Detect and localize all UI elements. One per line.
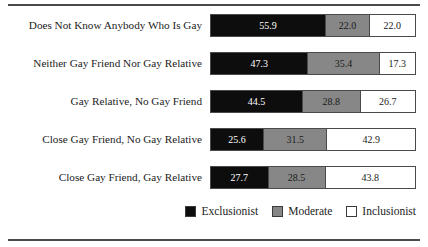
bar-segment-exclusionist: 27.7: [211, 167, 268, 188]
bar-segment-exclusionist: 25.6: [211, 129, 263, 150]
stacked-bar-track: 55.9 22.0 22.0: [210, 14, 416, 37]
row-label: Close Gay Friend, Gay Relative: [0, 166, 202, 189]
legend-item-exclusionist: Exclusionist: [185, 205, 258, 217]
bar-segment-exclusionist: 44.5: [211, 91, 302, 112]
table-row: Gay Relative, No Gay Friend 44.5 28.8 26…: [0, 90, 428, 113]
bar-segment-moderate: 22.0: [325, 15, 370, 36]
legend-item-moderate: Moderate: [272, 205, 332, 217]
bar-segment-inclusionist: 42.9: [327, 129, 415, 150]
table-row: Close Gay Friend, Gay Relative 27.7 28.5…: [0, 166, 428, 189]
bar-segment-inclusionist: 22.0: [370, 15, 415, 36]
stacked-bar-track: 44.5 28.8 26.7: [210, 90, 416, 113]
chart-plot-area: Does Not Know Anybody Who Is Gay 55.9 22…: [0, 14, 428, 204]
bar-segment-inclusionist: 17.3: [380, 53, 415, 74]
stacked-bar-track: 27.7 28.5 43.8: [210, 166, 416, 189]
table-row: Does Not Know Anybody Who Is Gay 55.9 22…: [0, 14, 428, 37]
stacked-bar-track: 25.6 31.5 42.9: [210, 128, 416, 151]
bar-segment-inclusionist: 26.7: [361, 91, 415, 112]
legend-label: Exclusionist: [201, 205, 258, 217]
stacked-bar-track: 47.3 35.4 17.3: [210, 52, 416, 75]
legend-swatch-icon: [272, 206, 283, 217]
row-label: Gay Relative, No Gay Friend: [0, 90, 202, 113]
chart-legend: Exclusionist Moderate Inclusionist: [0, 205, 416, 217]
bar-segment-inclusionist: 43.8: [326, 167, 415, 188]
bar-segment-exclusionist: 47.3: [211, 53, 307, 74]
legend-swatch-icon: [346, 206, 357, 217]
legend-label: Moderate: [288, 205, 332, 217]
bar-segment-moderate: 28.8: [302, 91, 361, 112]
bottom-rule-divider: [8, 239, 420, 241]
legend-swatch-icon: [185, 206, 196, 217]
table-row: Close Gay Friend, No Gay Relative 25.6 3…: [0, 128, 428, 151]
legend-item-inclusionist: Inclusionist: [346, 205, 416, 217]
table-row: Neither Gay Friend Nor Gay Relative 47.3…: [0, 52, 428, 75]
row-label: Close Gay Friend, No Gay Relative: [0, 128, 202, 151]
bar-segment-moderate: 35.4: [307, 53, 379, 74]
bar-segment-exclusionist: 55.9: [211, 15, 325, 36]
row-label: Neither Gay Friend Nor Gay Relative: [0, 52, 202, 75]
stacked-bar-chart: Does Not Know Anybody Who Is Gay 55.9 22…: [0, 0, 428, 247]
top-rule-divider: [8, 4, 420, 6]
bar-segment-moderate: 31.5: [263, 129, 327, 150]
row-label: Does Not Know Anybody Who Is Gay: [0, 14, 202, 37]
legend-label: Inclusionist: [362, 205, 416, 217]
bar-segment-moderate: 28.5: [268, 167, 326, 188]
